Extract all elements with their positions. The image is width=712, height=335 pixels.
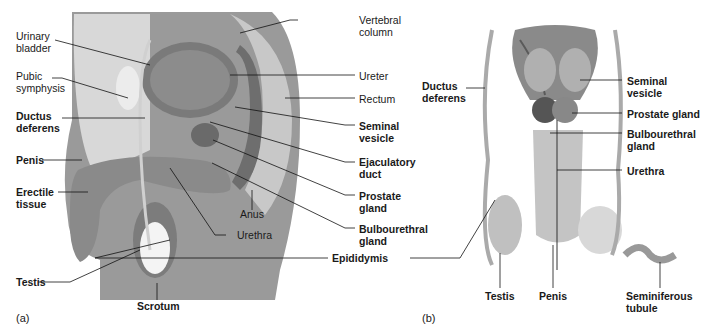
label-pubic-symphysis: Pubic symphysis: [16, 70, 65, 94]
label-erectile-tissue: Erectile tissue: [16, 186, 54, 210]
label-b-seminal-vesicle: Seminal vesicle: [627, 75, 667, 99]
label-b-bulbourethral-gland: Bulbourethral gland: [627, 128, 696, 152]
label-epididymis: Epididymis: [332, 252, 388, 264]
label-ejaculatory-duct: Ejaculatory duct: [359, 156, 416, 180]
label-bulbourethral-gland: Bulbourethral gland: [359, 223, 428, 247]
label-b-seminiferous-tubule: Seminiferous tubule: [626, 290, 693, 314]
label-ductus-deferens: Ductus deferens: [16, 110, 60, 134]
label-testis: Testis: [16, 276, 46, 288]
label-b-prostate-gland: Prostate gland: [627, 108, 700, 120]
label-b-testis: Testis: [485, 290, 515, 302]
label-b-urethra: Urethra: [627, 165, 664, 177]
label-vertebral-column: Vertebral column: [359, 14, 401, 38]
anatomy-illustration: [0, 0, 712, 335]
panel-b-letter: (b): [422, 312, 435, 324]
label-scrotum: Scrotum: [137, 300, 180, 312]
panel-a-letter: (a): [16, 312, 29, 324]
label-urinary-bladder: Urinary bladder: [16, 30, 51, 54]
label-b-penis: Penis: [539, 290, 567, 302]
label-b-ductus-deferens: Ductus deferens: [422, 80, 466, 104]
label-ureter: Ureter: [359, 70, 388, 82]
label-anus: Anus: [240, 208, 264, 220]
label-prostate-gland: Prostate gland: [359, 190, 401, 214]
label-penis: Penis: [16, 154, 44, 166]
label-urethra: Urethra: [237, 229, 272, 241]
label-seminal-vesicle: Seminal vesicle: [359, 120, 399, 144]
label-rectum: Rectum: [359, 93, 395, 105]
